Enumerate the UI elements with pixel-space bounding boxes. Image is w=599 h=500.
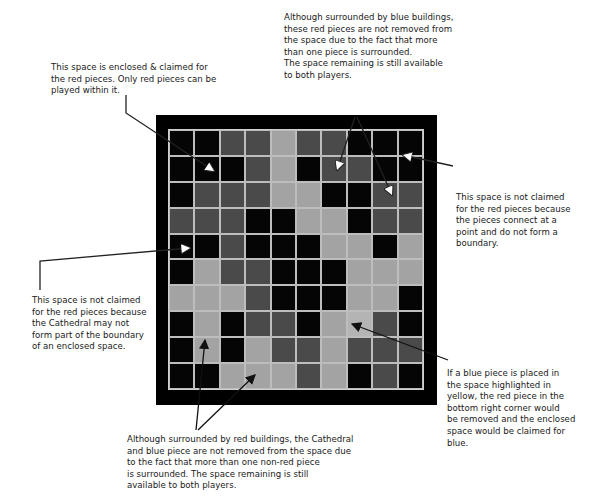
board-cell-r2-c4 xyxy=(271,182,296,208)
board-cell-r0-c7 xyxy=(347,130,372,156)
board-cell-r3-c4 xyxy=(271,208,296,234)
board-cell-r1-c5 xyxy=(296,156,321,182)
board-cell-r5-c3 xyxy=(245,259,270,285)
board-cell-r5-c8 xyxy=(372,259,397,285)
board-cell-r8-c2 xyxy=(220,337,245,363)
board-cell-r4-c6 xyxy=(321,234,346,260)
board-cell-r2-c8 xyxy=(372,182,397,208)
board-cell-r0-c0 xyxy=(169,130,194,156)
board-cell-r5-c4 xyxy=(271,259,296,285)
board-cell-r9-c5 xyxy=(296,363,321,389)
board-cell-r1-c0 xyxy=(169,156,194,182)
board-cell-r3-c5 xyxy=(296,208,321,234)
board-cell-r8-c1 xyxy=(194,337,219,363)
board-cell-r3-c6 xyxy=(321,208,346,234)
board-cell-r1-c7 xyxy=(347,156,372,182)
board-cell-r7-c4 xyxy=(271,311,296,337)
board-cell-r8-c9 xyxy=(398,337,423,363)
board-cell-r8-c0 xyxy=(169,337,194,363)
board-cell-r5-c9 xyxy=(398,259,423,285)
note-red-not-removed: Although surrounded by blue buildings, t… xyxy=(284,12,453,82)
note-cathedral-not-removed: Although surrounded by red buildings, th… xyxy=(127,434,353,492)
note-connect-at-point: This space is not claimed for the red pi… xyxy=(456,192,571,250)
board-cell-r6-c8 xyxy=(372,285,397,311)
board-cell-r2-c3 xyxy=(245,182,270,208)
board-cell-r9-c7 xyxy=(347,363,372,389)
board-cell-r3-c3 xyxy=(245,208,270,234)
board-cell-r1-c9 xyxy=(398,156,423,182)
board-cell-r2-c0 xyxy=(169,182,194,208)
board-cell-r1-c4 xyxy=(271,156,296,182)
board-cell-r8-c7 xyxy=(347,337,372,363)
board-cell-r6-c2 xyxy=(220,285,245,311)
board-cell-r1-c3 xyxy=(245,156,270,182)
board-cell-r4-c2 xyxy=(220,234,245,260)
board-cell-r6-c6 xyxy=(321,285,346,311)
board-cell-r3-c8 xyxy=(372,208,397,234)
board-cell-r0-c5 xyxy=(296,130,321,156)
board-cell-r9-c1 xyxy=(194,363,219,389)
board-cell-r4-c4 xyxy=(271,234,296,260)
board-cell-r4-c8 xyxy=(372,234,397,260)
board-cell-r0-c4 xyxy=(271,130,296,156)
board-cell-r7-c8 xyxy=(372,311,397,337)
note-yellow-highlight: If a blue piece is placed in the space h… xyxy=(447,368,575,449)
board-cell-r0-c1 xyxy=(194,130,219,156)
board-grid xyxy=(168,129,424,390)
board-cell-r2-c5 xyxy=(296,182,321,208)
board-cell-r8-c5 xyxy=(296,337,321,363)
board-cell-r0-c2 xyxy=(220,130,245,156)
board-cell-r9-c6 xyxy=(321,363,346,389)
board-cell-r0-c3 xyxy=(245,130,270,156)
board-cell-r4-c7 xyxy=(347,234,372,260)
board-cell-r9-c3 xyxy=(245,363,270,389)
board-cell-r1-c1 xyxy=(194,156,219,182)
board-cell-r4-c3 xyxy=(245,234,270,260)
board-cell-r9-c4 xyxy=(271,363,296,389)
note-cathedral-boundary: This space is not claimed for the red pi… xyxy=(32,295,147,353)
board-cell-r6-c3 xyxy=(245,285,270,311)
board-cell-r4-c0 xyxy=(169,234,194,260)
board-cell-r9-c0 xyxy=(169,363,194,389)
board-cell-r2-c1 xyxy=(194,182,219,208)
board-cell-r5-c6 xyxy=(321,259,346,285)
board-cell-r9-c9 xyxy=(398,363,423,389)
board-cell-r0-c6 xyxy=(321,130,346,156)
board-cell-r5-c2 xyxy=(220,259,245,285)
note-enclosed-red: This space is enclosed & claimed for the… xyxy=(51,62,216,97)
board-cell-r6-c9 xyxy=(398,285,423,311)
board-cell-r4-c1 xyxy=(194,234,219,260)
board-cell-r6-c7 xyxy=(347,285,372,311)
board-cell-r3-c0 xyxy=(169,208,194,234)
board-cell-r7-c1 xyxy=(194,311,219,337)
board-cell-r7-c5 xyxy=(296,311,321,337)
board-cell-r7-c6 xyxy=(321,311,346,337)
board-cell-r1-c2 xyxy=(220,156,245,182)
board-cell-r5-c1 xyxy=(194,259,219,285)
board-cell-r7-c9 xyxy=(398,311,423,337)
board-cell-r6-c0 xyxy=(169,285,194,311)
board-cell-r9-c8 xyxy=(372,363,397,389)
board-cell-r0-c8 xyxy=(372,130,397,156)
board-cell-r2-c2 xyxy=(220,182,245,208)
board-cell-r6-c5 xyxy=(296,285,321,311)
board-cell-r3-c9 xyxy=(398,208,423,234)
board-cell-r7-c2 xyxy=(220,311,245,337)
board-cell-r7-c7 xyxy=(347,311,372,337)
board-cell-r6-c1 xyxy=(194,285,219,311)
board-cell-r2-c6 xyxy=(321,182,346,208)
board-cell-r5-c7 xyxy=(347,259,372,285)
board-cell-r1-c6 xyxy=(321,156,346,182)
board-cell-r7-c0 xyxy=(169,311,194,337)
board-cell-r2-c9 xyxy=(398,182,423,208)
board-cell-r7-c3 xyxy=(245,311,270,337)
board-cell-r4-c9 xyxy=(398,234,423,260)
board-cell-r3-c1 xyxy=(194,208,219,234)
board-cell-r2-c7 xyxy=(347,182,372,208)
board-cell-r8-c4 xyxy=(271,337,296,363)
board-cell-r5-c0 xyxy=(169,259,194,285)
board-cell-r8-c3 xyxy=(245,337,270,363)
board-cell-r8-c6 xyxy=(321,337,346,363)
board-cell-r8-c8 xyxy=(372,337,397,363)
board-cell-r3-c7 xyxy=(347,208,372,234)
